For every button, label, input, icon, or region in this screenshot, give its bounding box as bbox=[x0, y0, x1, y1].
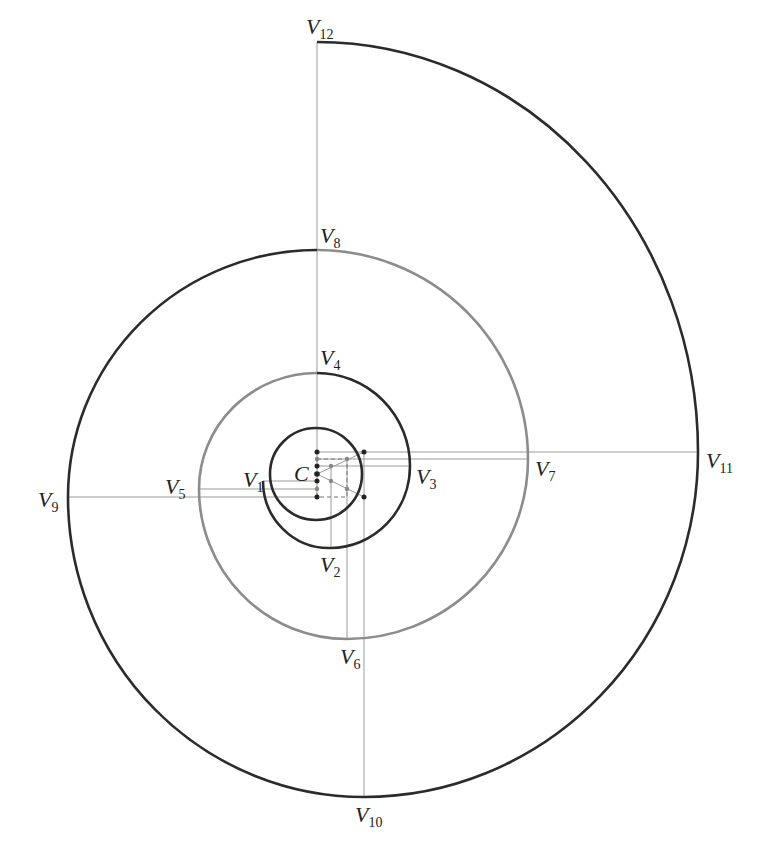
guide-lines bbox=[68, 42, 698, 797]
label-v12: V12 bbox=[306, 14, 333, 42]
arc-v6-v7 bbox=[347, 459, 528, 639]
spiral-arcs bbox=[68, 42, 698, 797]
label-v1: V1 bbox=[243, 467, 263, 495]
arc-v8-v9 bbox=[68, 250, 317, 497]
label-v4: V4 bbox=[320, 345, 340, 373]
label-v7: V7 bbox=[535, 456, 555, 484]
label-v9: V9 bbox=[38, 487, 58, 515]
label-v5: V5 bbox=[165, 474, 185, 502]
label-v2: V2 bbox=[320, 552, 340, 580]
spiral-svg: C V1 V2 V3 V4 V5 V6 V7 V8 V9 V10 V11 V12 bbox=[0, 0, 771, 849]
center-label: C bbox=[294, 461, 309, 486]
label-v10: V10 bbox=[355, 802, 382, 830]
label-v11: V11 bbox=[706, 448, 733, 476]
arc-v10-v11 bbox=[364, 452, 698, 797]
arc-v7-v8 bbox=[317, 250, 528, 459]
arc-v9-v10 bbox=[68, 497, 364, 797]
arc-v11-v12 bbox=[317, 42, 698, 452]
label-v6: V6 bbox=[340, 644, 360, 672]
label-v3: V3 bbox=[416, 464, 436, 492]
label-v8: V8 bbox=[320, 223, 340, 251]
arc-v2-v3 bbox=[331, 466, 410, 548]
vertex-labels: V1 V2 V3 V4 V5 V6 V7 V8 V9 V10 V11 V12 bbox=[38, 14, 733, 830]
spiral-diagram: C V1 V2 V3 V4 V5 V6 V7 V8 V9 V10 V11 V12 bbox=[0, 0, 771, 849]
